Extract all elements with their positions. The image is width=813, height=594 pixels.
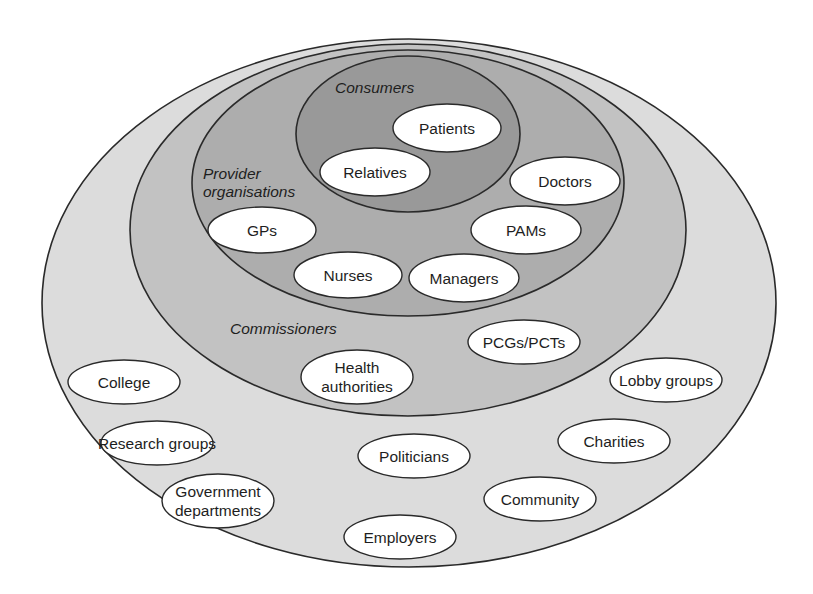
node-label: Nurses <box>323 267 372 284</box>
node-label: Doctors <box>538 173 592 190</box>
node-politicians: Politicians <box>358 434 470 478</box>
node-label: Charities <box>583 433 644 450</box>
node-label: GPs <box>247 222 277 239</box>
node-label: Research groups <box>98 435 216 452</box>
node-research-groups: Research groups <box>98 421 216 465</box>
node-label: Patients <box>419 120 475 137</box>
node-label: Relatives <box>343 164 407 181</box>
node-label: Employers <box>363 529 436 546</box>
node-label: Managers <box>430 270 499 287</box>
node-nurses: Nurses <box>294 252 402 298</box>
node-health-authorities: Healthauthorities <box>301 350 413 404</box>
node-label: PAMs <box>506 222 546 239</box>
node-label: Community <box>501 491 580 508</box>
node-label: College <box>98 374 151 391</box>
node-lobby-groups: Lobby groups <box>610 358 722 402</box>
node-charities: Charities <box>558 419 670 463</box>
node-patients: Patients <box>393 104 501 152</box>
node-label: Politicians <box>379 448 449 465</box>
group-label-commissioners: Commissioners <box>230 320 337 337</box>
node-label: PCGs/PCTs <box>483 334 566 351</box>
group-label-consumers: Consumers <box>335 79 414 96</box>
node-doctors: Doctors <box>510 157 620 205</box>
node-community: Community <box>484 477 596 521</box>
node-pcgs-pcts: PCGs/PCTs <box>468 320 580 364</box>
node-managers: Managers <box>409 254 519 302</box>
node-government-departments: Governmentdepartments <box>162 474 274 528</box>
node-label: Lobby groups <box>619 372 713 389</box>
node-gps: GPs <box>208 207 316 253</box>
node-college: College <box>68 360 180 404</box>
stakeholder-diagram: PatientsRelativesDoctorsGPsPAMsNursesMan… <box>0 0 813 594</box>
node-pams: PAMs <box>471 206 581 254</box>
node-employers: Employers <box>344 515 456 559</box>
node-relatives: Relatives <box>320 148 430 196</box>
